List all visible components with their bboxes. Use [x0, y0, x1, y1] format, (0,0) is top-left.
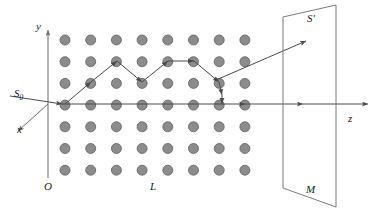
beam-rays [10, 41, 368, 104]
lattice-atom [163, 122, 173, 132]
lattice-atom [163, 35, 173, 45]
origin-label: O [44, 180, 52, 192]
screen-label: M [305, 183, 316, 195]
diagram-canvas: y x z O S0 L S' M [0, 0, 375, 216]
lattice-atom [137, 100, 147, 110]
lattice-atom [189, 78, 199, 88]
lattice-atom [240, 165, 250, 175]
lattice-atom [60, 78, 70, 88]
lattice-atom [214, 35, 224, 45]
lattice-atom [163, 78, 173, 88]
x-axis [18, 104, 48, 131]
z-axis-label: z [347, 112, 353, 124]
lattice-atom [86, 165, 96, 175]
lattice-atom [240, 122, 250, 132]
screen-plane-outline [283, 5, 336, 207]
lattice-label: L [149, 180, 156, 192]
lattice-atom [86, 100, 96, 110]
lattice-atom [163, 165, 173, 175]
incident-beam-label: S0 [14, 87, 24, 102]
incident-beam-label-subscript: 0 [20, 93, 24, 102]
lattice-atom [189, 100, 199, 110]
lattice-atom [214, 144, 224, 154]
lattice-atom [189, 35, 199, 45]
lattice-atom [60, 165, 70, 175]
lattice-atom [163, 100, 173, 110]
lattice-atom [240, 100, 250, 110]
y-axis-label: y [35, 20, 41, 32]
lattice-atom [137, 165, 147, 175]
lattice-atom [60, 122, 70, 132]
detector-screen [283, 5, 336, 207]
lattice-atom [111, 100, 121, 110]
scattered-beam-ray [216, 41, 306, 80]
lattice-atom [111, 78, 121, 88]
lattice-atom [214, 57, 224, 67]
lattice-atom [86, 35, 96, 45]
lattice-atom [86, 57, 96, 67]
lattice-atom [137, 144, 147, 154]
lattice-atom-grid [60, 35, 250, 175]
lattice-atom [60, 144, 70, 154]
lattice-atom [137, 57, 147, 67]
physics-diagram-figure: y x z O S0 L S' M [0, 0, 375, 216]
lattice-atom [214, 122, 224, 132]
lattice-atom [189, 165, 199, 175]
lattice-atom [60, 35, 70, 45]
lattice-atom [240, 144, 250, 154]
lattice-atom [111, 35, 121, 45]
lattice-atom [189, 122, 199, 132]
lattice-atom [137, 122, 147, 132]
lattice-atom [163, 144, 173, 154]
x-axis-label: x [16, 123, 22, 135]
lattice-atom [111, 144, 121, 154]
lattice-atom [214, 165, 224, 175]
lattice-atom [240, 57, 250, 67]
lattice-atom [60, 57, 70, 67]
zigzag-arrowheads [85, 59, 224, 104]
lattice-atom [86, 144, 96, 154]
lattice-atom [189, 144, 199, 154]
lattice-atom [111, 122, 121, 132]
lattice-atom [111, 165, 121, 175]
lattice-atom [240, 35, 250, 45]
coordinate-axes [18, 30, 48, 178]
lattice-atom [137, 35, 147, 45]
lattice-atom [86, 122, 96, 132]
lattice-atom [240, 78, 250, 88]
scattered-beam-label: S' [307, 12, 316, 24]
